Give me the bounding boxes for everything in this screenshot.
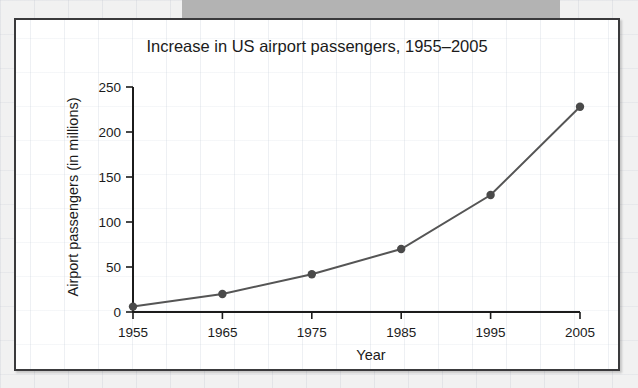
figure-frame: Increase in US airport passengers, 1955–… (14, 18, 620, 371)
data-point (218, 290, 226, 298)
data-point (576, 103, 584, 111)
y-tick-label: 0 (113, 305, 121, 320)
data-point (308, 270, 316, 278)
y-tick-label: 250 (98, 80, 121, 95)
data-point (129, 302, 137, 310)
x-axis-ticks: 195519651975198519952005 (118, 312, 595, 340)
y-tick-label: 150 (98, 170, 121, 185)
x-tick-label: 1995 (476, 325, 506, 340)
data-point (397, 245, 405, 253)
header-band (182, 0, 560, 18)
chart-title: Increase in US airport passengers, 1955–… (146, 37, 487, 55)
data-line (133, 107, 580, 307)
y-axis-ticks: 050100150200250 (98, 80, 133, 320)
x-axis-label: Year (356, 347, 385, 363)
y-tick-label: 50 (106, 260, 121, 275)
x-tick-label: 1985 (386, 325, 416, 340)
data-point (486, 191, 494, 199)
y-axis-label: Airport passengers (in millions) (65, 97, 81, 296)
line-chart: Increase in US airport passengers, 1955–… (16, 20, 618, 369)
y-tick-label: 200 (98, 125, 121, 140)
y-tick-label: 100 (98, 215, 121, 230)
x-tick-label: 1965 (207, 325, 237, 340)
x-tick-label: 2005 (565, 325, 595, 340)
x-tick-label: 1955 (118, 325, 148, 340)
x-tick-label: 1975 (297, 325, 327, 340)
data-point-markers (129, 103, 584, 311)
